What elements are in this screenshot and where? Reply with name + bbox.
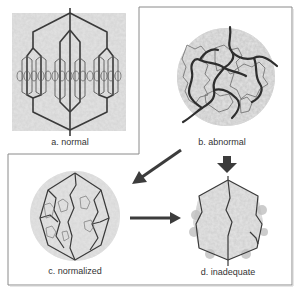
panel-d-label: d. inadequate (201, 267, 256, 277)
arrow-b-to-d (217, 156, 237, 173)
panel-a-normal (12, 8, 126, 136)
panel-a-label: a. normal (51, 137, 89, 147)
panel-b-abnormal (177, 27, 277, 126)
arrow-c-to-d (130, 212, 181, 224)
arrow-b-to-c (132, 150, 181, 184)
panel-c-normalized (30, 171, 120, 261)
panel-b-label: b. abnormal (198, 137, 246, 147)
panel-c-label: c. normalized (48, 266, 102, 276)
vasculature-diagram (0, 0, 299, 292)
panel-d-inadequate (189, 176, 268, 266)
